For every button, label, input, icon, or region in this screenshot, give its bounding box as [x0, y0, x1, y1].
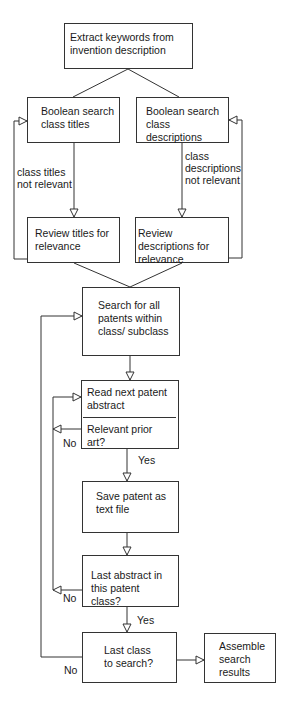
extract-keywords-node: Extract keywords from invention descript… [64, 23, 193, 69]
relevant-prior-art-question: Relevant prior art? [87, 423, 172, 449]
last-class-text: Last class to search? [104, 644, 153, 669]
boolean-search-descriptions-node: Boolean search class descriptions [136, 97, 229, 143]
review-titles-text: Review titles for relevance [35, 227, 109, 252]
read-next-abstract-node: Read next patent abstract Relevant prior… [81, 380, 179, 449]
boolean-search-titles-node: Boolean search class titles [27, 97, 120, 143]
review-descriptions-text: Review descriptions for relevance [138, 227, 209, 265]
last-class-node: Last class to search? [82, 632, 177, 683]
save-patent-node: Save patent as text file [82, 481, 179, 533]
last-class-no-label: No [64, 664, 77, 676]
last-abstract-yes-label: Yes [137, 614, 154, 626]
extract-keywords-text: Extract keywords from invention descript… [70, 31, 174, 56]
relevant-yes-label: Yes [138, 454, 155, 466]
titles-not-relevant-label: class titles not relevant [17, 166, 73, 190]
search-all-patents-text: Search for all patents within class/ sub… [98, 299, 169, 337]
review-descriptions-node: Review descriptions for relevance [135, 217, 229, 263]
last-abstract-text: Last abstract in this patent class? [91, 569, 162, 607]
search-all-patents-node: Search for all patents within class/ sub… [82, 287, 180, 356]
descriptions-not-relevant-label: class descriptions not relevant [185, 150, 245, 186]
divider [83, 417, 176, 418]
relevant-no-label: No [63, 437, 76, 449]
read-next-abstract-text: Read next patent abstract [87, 386, 172, 412]
save-patent-text: Save patent as text file [96, 490, 166, 515]
boolean-search-titles-text: Boolean search class titles [41, 105, 114, 130]
last-abstract-node: Last abstract in this patent class? [82, 555, 179, 607]
review-titles-node: Review titles for relevance [27, 217, 120, 263]
last-abstract-no-label: No [63, 592, 76, 604]
assemble-results-node: Assemble search results [204, 633, 276, 683]
assemble-results-text: Assemble search results [219, 640, 265, 678]
boolean-search-descriptions-text: Boolean search class descriptions [146, 105, 219, 143]
